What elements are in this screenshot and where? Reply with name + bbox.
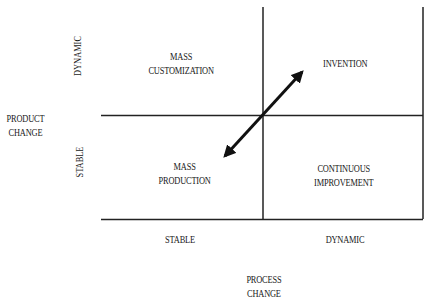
quadrant-label-line1: CONTINUOUS [314,162,373,176]
y-axis-title-line2: CHANGE [7,126,45,140]
y-axis-title: PRODUCT CHANGE [7,112,45,140]
quadrant-label-line2: PRODUCTION [159,174,211,188]
quadrant-mass-production: MASS PRODUCTION [159,160,211,188]
quadrant-label-line1: MASS [159,160,211,174]
quadrant-label-line2: CUSTOMIZATION [148,64,213,78]
x-axis-title-line2: CHANGE [246,287,281,301]
quadrant-invention: INVENTION [323,57,367,71]
y-axis-bottom-label: STABLE [75,147,85,178]
quadrant-label-line1: MASS [148,50,213,64]
x-axis-right-label: DYNAMIC [326,233,365,247]
x-axis-title-line1: PROCESS [246,273,281,287]
quadrant-continuous-improvement: CONTINUOUS IMPROVEMENT [314,162,373,190]
y-axis-title-line1: PRODUCT [7,112,45,126]
x-axis-left-label: STABLE [165,233,195,247]
x-axis-title: PROCESS CHANGE [246,273,281,301]
y-axis-top-label: DYNAMIC [73,36,83,76]
quadrant-label-line2: IMPROVEMENT [314,176,373,190]
quadrant-label-line1: INVENTION [323,57,367,71]
quadrant-mass-customization: MASS CUSTOMIZATION [148,50,213,78]
matrix-grid [0,0,434,307]
